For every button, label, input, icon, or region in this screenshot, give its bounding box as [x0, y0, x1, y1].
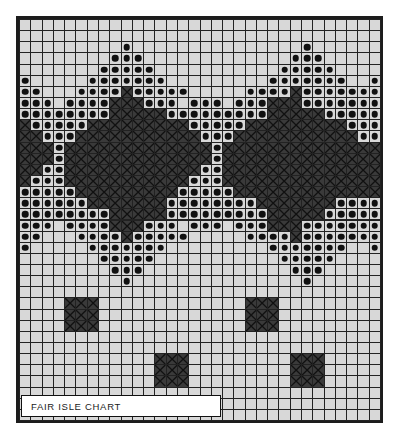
- chart-grid: [19, 19, 380, 420]
- chart-cell: [369, 409, 381, 421]
- chart-title-text: FAIR ISLE CHART: [31, 401, 121, 412]
- fair-isle-chart-panel: FAIR ISLE CHART: [16, 16, 383, 423]
- chart-title-box: FAIR ISLE CHART: [21, 395, 221, 417]
